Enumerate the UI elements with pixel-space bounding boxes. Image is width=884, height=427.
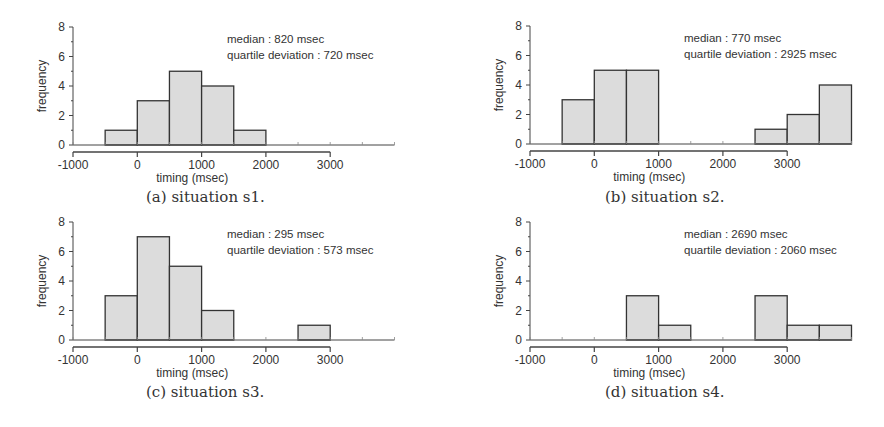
y-tick-label: 2 — [58, 304, 65, 318]
quartile-deviation-annotation: quartile deviation : 573 msec — [227, 244, 374, 256]
x-axis-label: timing (msec) — [156, 366, 228, 380]
chart-panel-b: 02468frequency-10000100020003000timing (… — [442, 0, 884, 213]
y-tick-label: 4 — [515, 274, 522, 288]
histogram-bar — [169, 71, 201, 145]
histogram-bar — [755, 296, 787, 340]
histogram-b: 02468frequency-10000100020003000timing (… — [442, 0, 884, 195]
histogram-bar — [626, 296, 658, 340]
median-annotation: median : 820 msec — [227, 33, 324, 45]
histogram-bar — [202, 86, 234, 145]
x-tick-label: 1000 — [645, 157, 672, 171]
quartile-deviation-annotation: quartile deviation : 720 msec — [227, 49, 374, 61]
x-tick-label: 0 — [134, 158, 141, 172]
x-tick-label: 3000 — [317, 158, 344, 172]
x-axis-label: timing (msec) — [156, 171, 228, 185]
x-tick-label: 0 — [134, 353, 141, 367]
median-annotation: median : 770 msec — [684, 32, 781, 44]
y-tick-label: 4 — [515, 78, 522, 92]
x-axis-label: timing (msec) — [613, 366, 685, 380]
x-tick-label: 1000 — [188, 353, 215, 367]
histogram-bar — [787, 115, 819, 145]
histogram-bar — [626, 70, 658, 144]
caption-b: (b) situation s2. — [605, 188, 725, 206]
x-tick-label: 3000 — [774, 157, 801, 171]
y-tick-label: 2 — [515, 108, 522, 122]
median-annotation: median : 2690 msec — [684, 228, 788, 240]
x-tick-label: 2000 — [253, 353, 280, 367]
y-tick-label: 0 — [58, 138, 65, 152]
chart-panel-a: 02468frequency-10000100020003000timing (… — [0, 0, 442, 213]
y-tick-label: 0 — [515, 333, 522, 347]
histogram-bar — [819, 85, 851, 144]
histogram-bar — [105, 130, 137, 145]
caption-c: (c) situation s3. — [146, 383, 264, 401]
y-axis-label: frequency — [492, 59, 506, 112]
y-tick-label: 8 — [515, 19, 522, 33]
histogram-bar — [562, 100, 594, 144]
x-tick-label: 1000 — [645, 353, 672, 367]
x-tick-label: -1000 — [515, 353, 546, 367]
y-tick-label: 2 — [515, 304, 522, 318]
histogram-bar — [755, 129, 787, 144]
y-tick-label: 6 — [515, 49, 522, 63]
x-tick-label: 3000 — [317, 353, 344, 367]
median-annotation: median : 295 msec — [227, 228, 324, 240]
x-tick-label: -1000 — [58, 158, 89, 172]
histogram-a: 02468frequency-10000100020003000timing (… — [0, 0, 442, 195]
histogram-bar — [202, 311, 234, 341]
histogram-bar — [137, 237, 169, 340]
x-axis-label: timing (msec) — [613, 170, 685, 184]
y-tick-label: 0 — [515, 137, 522, 151]
histogram-bar — [234, 130, 266, 145]
quartile-deviation-annotation: quartile deviation : 2925 msec — [684, 48, 837, 60]
x-tick-label: -1000 — [58, 353, 89, 367]
x-tick-label: 2000 — [710, 353, 737, 367]
y-tick-label: 0 — [58, 333, 65, 347]
y-tick-label: 4 — [58, 79, 65, 93]
y-tick-label: 8 — [515, 215, 522, 229]
histogram-bar — [169, 266, 201, 340]
x-tick-label: 0 — [591, 353, 598, 367]
histogram-d: 02468frequency-10000100020003000timing (… — [442, 205, 884, 385]
histogram-bar — [659, 325, 691, 340]
y-tick-label: 2 — [58, 109, 65, 123]
histogram-bar — [298, 325, 330, 340]
histogram-bar — [137, 101, 169, 145]
y-tick-label: 8 — [58, 215, 65, 229]
histogram-bar — [594, 70, 626, 144]
y-tick-label: 6 — [58, 50, 65, 64]
y-tick-label: 4 — [58, 274, 65, 288]
histogram-c: 02468frequency-10000100020003000timing (… — [0, 205, 442, 385]
y-axis-label: frequency — [492, 255, 506, 308]
x-tick-label: -1000 — [515, 157, 546, 171]
quartile-deviation-annotation: quartile deviation : 2060 msec — [684, 244, 837, 256]
y-tick-label: 6 — [515, 245, 522, 259]
histogram-bar — [819, 325, 851, 340]
y-axis-label: frequency — [35, 60, 49, 113]
x-tick-label: 2000 — [710, 157, 737, 171]
x-tick-label: 0 — [591, 157, 598, 171]
histogram-bar — [105, 296, 137, 340]
y-tick-label: 8 — [58, 20, 65, 34]
x-tick-label: 2000 — [253, 158, 280, 172]
y-axis-label: frequency — [35, 255, 49, 308]
caption-a: (a) situation s1. — [146, 188, 265, 206]
caption-d: (d) situation s4. — [605, 383, 725, 401]
x-tick-label: 3000 — [774, 353, 801, 367]
chart-panel-c: 02468frequency-10000100020003000timing (… — [0, 205, 442, 418]
x-tick-label: 1000 — [188, 158, 215, 172]
histogram-bar — [787, 325, 819, 340]
chart-panel-d: 02468frequency-10000100020003000timing (… — [442, 205, 884, 418]
y-tick-label: 6 — [58, 245, 65, 259]
